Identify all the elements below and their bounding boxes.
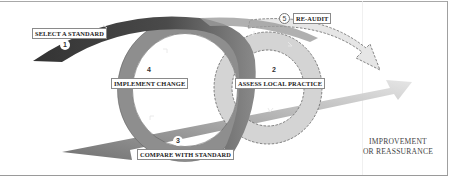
step-2-number-badge: 2 — [269, 65, 279, 75]
step-4-label: IMPLEMENT CHANGE — [111, 78, 188, 89]
step-5-label: RE-AUDIT — [293, 13, 331, 24]
step-2-label: ASSESS LOCAL PRACTICE — [235, 78, 325, 89]
step-3-label: COMPARE WITH STANDARD — [137, 149, 234, 160]
step-1-label: SELECT A STANDARD — [32, 28, 107, 39]
outcome-line-1: IMPROVEMENT — [340, 137, 456, 147]
step-1-number-badge: 1 — [60, 40, 70, 50]
step-3-number-badge: 3 — [173, 136, 183, 146]
outcome-text: IMPROVEMENT OR REASSURANCE — [340, 137, 456, 156]
outcome-line-2: OR REASSURANCE — [340, 147, 456, 157]
step-4-number-badge: 4 — [144, 65, 154, 75]
step-5-number-badge: 5 — [279, 13, 290, 24]
diagram-frame: SELECT A STANDARD 1 4 IMPLEMENT CHANGE 2… — [0, 0, 459, 181]
